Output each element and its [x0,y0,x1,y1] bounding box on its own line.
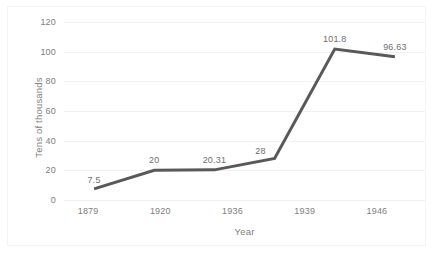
data-point-label: 20 [149,155,159,165]
series-polyline [94,49,395,189]
y-axis-title-holder: Tens of thousands [24,22,38,200]
data-point-label: 101.8 [323,34,347,44]
x-tick-label: 1879 [78,206,99,216]
x-tick-label: 1946 [366,206,387,216]
x-tick-label: 1936 [222,206,243,216]
x-tick-label: 1939 [294,206,315,216]
x-tick-label: 1920 [150,206,171,216]
y-axis-title: Tens of thousands [33,58,44,178]
data-point-label: 20.31 [203,155,227,165]
plot-area: 7.52020.3128101.896.63 [64,22,425,200]
x-axis-title: Year [64,226,425,237]
data-point-label: 7.5 [88,175,101,185]
data-point-label: 96.63 [383,42,407,52]
x-axis-line [64,200,425,201]
line-chart: 0 20 40 60 80 100 120 Tens of thousands … [0,0,433,257]
series-line [64,22,425,200]
x-axis-tick-labels: 1879 1920 1936 1939 1946 1949 [64,206,425,220]
data-point-label: 28 [255,146,265,156]
